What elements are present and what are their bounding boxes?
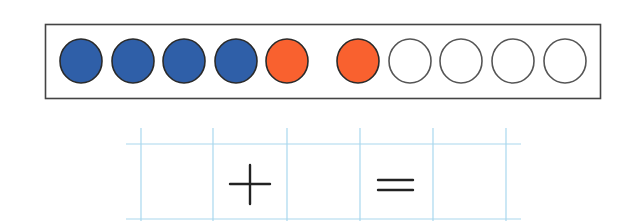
counter-circle-blue [163, 39, 205, 83]
counter-circle-blue [112, 39, 154, 83]
counter-circle-blue [215, 39, 257, 83]
ten-frame-diagram [0, 0, 634, 221]
counter-circle-red [337, 39, 379, 83]
equals-icon [378, 180, 413, 190]
counter-circle-empty [440, 39, 482, 83]
answer-box-1[interactable] [142, 145, 212, 218]
counter-circle-red [266, 39, 308, 83]
counter-circle-empty [544, 39, 586, 83]
answer-box-2[interactable] [288, 145, 359, 218]
plus-icon [230, 165, 270, 204]
counter-circle-blue [60, 39, 102, 83]
counter-circle-empty [492, 39, 534, 83]
answer-box-3[interactable] [434, 145, 505, 218]
counter-circle-empty [389, 39, 431, 83]
